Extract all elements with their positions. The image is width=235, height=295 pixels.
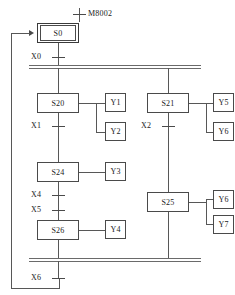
action-box-y5[interactable]: Y5 xyxy=(213,93,234,112)
wire-feedback-rail xyxy=(11,33,12,288)
state-box-s20[interactable]: S20 xyxy=(37,93,79,113)
divergence-bar-lower xyxy=(29,68,201,69)
wire-s20-to-actions xyxy=(79,103,97,104)
wire-s21-to-actions xyxy=(189,103,207,104)
action-box-y7[interactable]: Y7 xyxy=(213,215,234,234)
state-label-s0: S0 xyxy=(40,25,76,41)
state-box-s25[interactable]: S25 xyxy=(147,192,189,212)
state-label-s26: S26 xyxy=(51,226,64,235)
wire-divergence-to-right-branch xyxy=(168,68,169,93)
transition-label-x1: X1 xyxy=(31,121,41,130)
action-label-y2: Y2 xyxy=(110,127,120,136)
transition-label-x5: X5 xyxy=(31,205,41,214)
action-box-y2[interactable]: Y2 xyxy=(105,122,126,141)
action-label-y6: Y6 xyxy=(218,127,228,136)
wire-s26-to-y4 xyxy=(79,230,105,231)
transition-label-x4: X4 xyxy=(31,190,41,199)
wire-s20-action-bus xyxy=(96,103,97,132)
convergence-bar-lower xyxy=(29,261,201,262)
transition-tick-x6 xyxy=(52,278,65,279)
state-label-s25: S25 xyxy=(161,198,174,207)
wire-s25-action-bus xyxy=(206,199,207,225)
state-box-s24[interactable]: S24 xyxy=(37,162,79,182)
wire-s24-to-y3 xyxy=(79,172,105,173)
action-label-y5: Y5 xyxy=(218,98,228,107)
wire-s25-to-convergence xyxy=(168,212,169,259)
state-label-s20: S20 xyxy=(51,99,64,108)
wire-s25-to-actions xyxy=(189,202,207,203)
action-box-y3[interactable]: Y3 xyxy=(105,162,126,181)
wire-divergence-to-left-branch xyxy=(58,68,59,93)
wire-feedback-bottom xyxy=(11,288,60,289)
state-box-s21[interactable]: S21 xyxy=(147,93,189,113)
action-box-y6b[interactable]: Y6 xyxy=(213,190,234,209)
wire-feedback-riser xyxy=(59,278,60,289)
action-label-y7: Y7 xyxy=(218,220,228,229)
wire-s0-to-x0 xyxy=(58,43,59,66)
transition-tick-x4 xyxy=(52,195,65,196)
transition-tick-m8002 xyxy=(73,14,86,15)
action-box-y4[interactable]: Y4 xyxy=(105,220,126,239)
wire-s20-to-s24 xyxy=(58,113,59,162)
action-label-y4: Y4 xyxy=(110,225,120,234)
state-box-s0[interactable]: S0 xyxy=(37,23,79,43)
transition-label-x6: X6 xyxy=(31,273,41,282)
convergence-bar-upper xyxy=(29,258,201,259)
wire-s21-to-s25 xyxy=(168,113,169,192)
transition-tick-x0 xyxy=(52,57,65,58)
transition-tick-x1 xyxy=(52,126,65,127)
wire-s24-to-s26 xyxy=(58,182,59,220)
transition-label-x2: X2 xyxy=(141,121,151,130)
action-label-y1: Y1 xyxy=(110,98,120,107)
wire-s21-action-bus xyxy=(206,103,207,132)
transition-label-x0: X0 xyxy=(31,52,41,61)
wire-top-to-s0 xyxy=(79,8,80,22)
action-label-y6b: Y6 xyxy=(218,195,228,204)
sfc-diagram-canvas: M8002 S0 X0 S20 Y1 Y2 X1 S24 Y3 xyxy=(0,0,235,295)
wire-feedback-top xyxy=(11,33,30,34)
transition-tick-x2 xyxy=(162,126,175,127)
action-box-y6[interactable]: Y6 xyxy=(213,122,234,141)
state-label-s24: S24 xyxy=(51,168,64,177)
state-label-s21: S21 xyxy=(161,99,174,108)
wire-convergence-to-x6 xyxy=(58,261,59,279)
transition-tick-x5 xyxy=(52,210,65,211)
wire-s26-to-convergence xyxy=(58,240,59,259)
divergence-bar-upper xyxy=(29,65,201,66)
transition-label-m8002: M8002 xyxy=(88,9,112,18)
action-box-y1[interactable]: Y1 xyxy=(105,93,126,112)
action-label-y3: Y3 xyxy=(110,167,120,176)
state-box-s26[interactable]: S26 xyxy=(37,220,79,240)
